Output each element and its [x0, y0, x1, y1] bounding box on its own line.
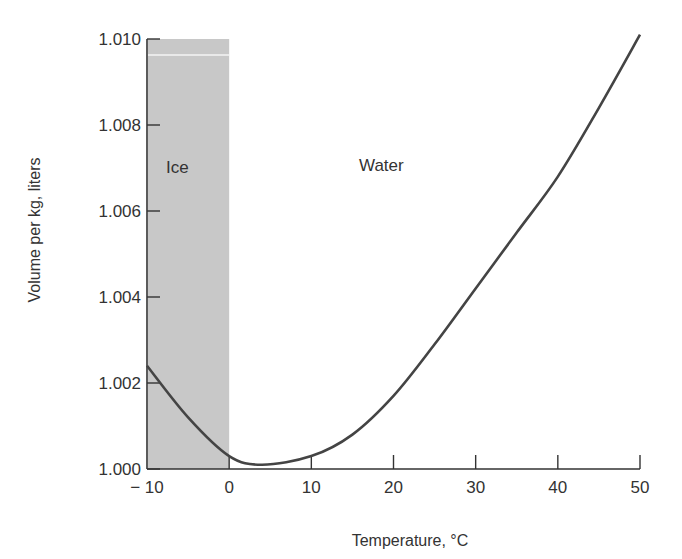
y-tick-label: 1.010: [98, 30, 141, 49]
x-tick-label: − 10: [130, 478, 164, 497]
ice-region-shade: [148, 39, 229, 469]
water-label: Water: [359, 156, 404, 175]
y-tick-label: 1.008: [98, 116, 141, 135]
x-tick-label: 50: [631, 478, 650, 497]
x-axis-title: Temperature, °C: [352, 532, 469, 549]
x-tick-label: 40: [548, 478, 567, 497]
y-axis-title: Volume per kg, liters: [26, 158, 43, 303]
volume-temperature-chart: − 1001020304050 1.0001.0021.0041.0061.00…: [0, 0, 682, 559]
y-tick-label: 1.004: [98, 288, 141, 307]
x-tick-label: 30: [466, 478, 485, 497]
y-tick-label: 1.002: [98, 374, 141, 393]
x-tick-label: 0: [224, 478, 233, 497]
y-tick-label: 1.006: [98, 202, 141, 221]
x-tick-label: 10: [302, 478, 321, 497]
y-tick-label: 1.000: [98, 460, 141, 479]
ice-label: Ice: [166, 158, 189, 177]
x-tick-label: 20: [384, 478, 403, 497]
